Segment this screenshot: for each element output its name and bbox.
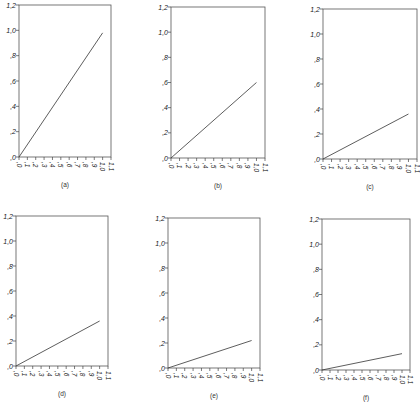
panel-caption: (a): [61, 181, 69, 189]
x-tick-label: ,0: [319, 375, 326, 381]
y-tick-label: ,0: [313, 367, 319, 374]
y-tick-label: ,4: [162, 104, 168, 111]
y-tick-label: ,4: [159, 315, 165, 322]
y-tick-label: ,6: [7, 288, 13, 295]
x-tick-label: ,7: [227, 163, 234, 169]
x-tick-label: ,3: [41, 162, 48, 168]
x-tick-label: ,4: [49, 162, 56, 168]
x-tick-label: 1,0: [253, 163, 260, 172]
data-line: [16, 321, 100, 366]
data-line: [323, 114, 408, 159]
x-tick-label: ,8: [82, 162, 89, 168]
y-tick-label: 1,2: [3, 213, 13, 220]
x-tick-label: ,7: [375, 375, 382, 381]
chart-panel-b: ,0,2,4,6,81,01,2,0,1,2,3,4,5,6,7,8,91,01…: [158, 4, 268, 191]
panel-caption: (f): [363, 394, 369, 402]
x-tick-label: 1,0: [405, 164, 412, 173]
x-tick-label: ,7: [71, 371, 78, 377]
y-tick-label: 1,0: [6, 27, 16, 34]
x-tick-label: ,2: [181, 373, 188, 379]
x-tick-label: ,0: [16, 162, 23, 168]
x-tick-label: 1,1: [257, 373, 264, 382]
x-tick-label: ,7: [379, 164, 386, 170]
x-tick-label: ,9: [396, 164, 403, 170]
y-tick-label: ,2: [313, 341, 319, 348]
x-tick-label: ,2: [29, 371, 36, 377]
y-tick-label: ,0: [314, 156, 320, 163]
x-tick-label: ,7: [74, 162, 81, 168]
x-tick-label: ,5: [57, 162, 64, 168]
y-tick-label: ,2: [159, 340, 165, 347]
x-tick-label: ,0: [320, 164, 327, 170]
panel-caption: (e): [210, 392, 218, 400]
y-tick-label: ,2: [314, 131, 320, 138]
x-tick-label: ,8: [79, 371, 86, 377]
x-tick-label: ,6: [367, 375, 374, 381]
x-tick-label: ,2: [337, 164, 344, 170]
x-tick-label: ,4: [351, 375, 358, 381]
x-tick-label: 1,1: [407, 375, 414, 384]
x-tick-label: ,4: [46, 371, 53, 377]
x-tick-label: ,8: [383, 375, 390, 381]
plot-frame: [19, 5, 111, 157]
x-tick-label: ,5: [210, 163, 217, 169]
y-tick-label: ,4: [314, 106, 320, 113]
y-tick-label: ,6: [313, 291, 319, 298]
y-tick-label: 1,0: [3, 238, 13, 245]
y-tick-label: ,8: [162, 54, 168, 61]
y-tick-label: 1,0: [155, 240, 165, 247]
y-tick-label: 1,2: [309, 216, 319, 223]
x-tick-label: ,2: [32, 162, 39, 168]
chart-panel-f: ,0,2,4,6,81,01,2,0,1,2,3,4,5,6,7,8,91,01…: [309, 216, 413, 403]
x-tick-label: ,6: [215, 373, 222, 379]
y-tick-label: ,0: [159, 365, 165, 372]
x-tick-label: 1,1: [108, 162, 115, 171]
y-tick-label: ,4: [7, 313, 13, 320]
x-tick-label: ,1: [24, 162, 31, 168]
y-tick-label: ,0: [7, 363, 13, 370]
chart-panel-a: ,0,2,4,6,81,01,2,0,1,2,3,4,5,6,7,8,91,01…: [6, 2, 114, 190]
data-line: [168, 341, 252, 369]
x-tick-label: 1,0: [399, 375, 406, 384]
y-tick-label: 1,2: [158, 4, 168, 11]
x-tick-label: ,1: [173, 373, 180, 379]
y-tick-label: ,2: [10, 128, 16, 135]
chart-panel-c: ,0,2,4,6,81,01,2,0,1,2,3,4,5,6,7,8,91,01…: [310, 6, 420, 192]
x-tick-label: ,8: [236, 163, 243, 169]
x-tick-label: 1,1: [414, 164, 420, 173]
y-tick-label: 1,2: [310, 6, 320, 13]
x-tick-label: ,8: [231, 373, 238, 379]
plot-frame: [323, 9, 417, 159]
y-tick-label: ,4: [10, 103, 16, 110]
x-tick-label: ,2: [185, 163, 192, 169]
x-tick-label: ,3: [38, 371, 45, 377]
x-tick-label: ,0: [165, 373, 172, 379]
x-tick-label: ,4: [202, 163, 209, 169]
data-line: [322, 354, 402, 370]
x-tick-label: ,9: [88, 371, 95, 377]
x-tick-label: ,6: [66, 162, 73, 168]
panel-caption: (d): [58, 390, 66, 398]
x-tick-label: ,5: [206, 373, 213, 379]
y-tick-label: 1,0: [309, 241, 319, 248]
x-tick-label: 1,1: [262, 163, 269, 172]
y-tick-label: 1,0: [310, 31, 320, 38]
y-tick-label: ,8: [314, 56, 320, 63]
plot-frame: [168, 218, 260, 368]
x-tick-label: ,2: [335, 375, 342, 381]
x-tick-label: ,1: [176, 163, 183, 169]
x-tick-label: ,5: [362, 164, 369, 170]
x-tick-label: ,1: [21, 371, 28, 377]
y-tick-label: 1,2: [6, 2, 16, 9]
x-tick-label: ,1: [328, 164, 335, 170]
chart-panel-d: ,0,2,4,6,81,01,2,0,1,2,3,4,5,6,7,8,91,01…: [3, 213, 111, 399]
x-tick-label: ,3: [193, 163, 200, 169]
figure-six-panel-line-charts: ,0,2,4,6,81,01,2,0,1,2,3,4,5,6,7,8,91,01…: [0, 0, 420, 406]
x-tick-label: ,3: [190, 373, 197, 379]
x-tick-label: ,4: [354, 164, 361, 170]
y-tick-label: ,6: [159, 290, 165, 297]
y-tick-label: ,8: [159, 265, 165, 272]
chart-panel-e: ,0,2,4,6,81,01,2,0,1,2,3,4,5,6,7,8,91,01…: [155, 215, 263, 401]
x-tick-label: ,5: [54, 371, 61, 377]
x-tick-label: ,7: [223, 373, 230, 379]
